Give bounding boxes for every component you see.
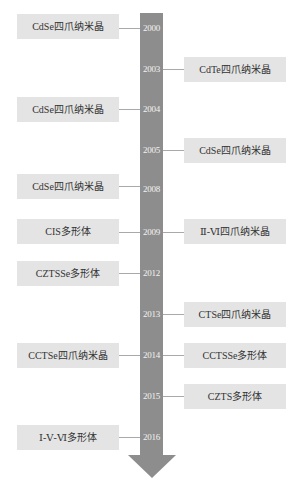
connector-line [119, 28, 140, 29]
event-box: CdSe四爪纳米晶 [17, 97, 119, 122]
year-label: 2005 [140, 145, 163, 155]
event-box: CIS多形体 [17, 219, 119, 244]
event-box: CTSe四爪纳米晶 [184, 302, 286, 327]
connector-line [163, 314, 184, 315]
connector-line [163, 150, 184, 151]
connector-line [119, 437, 140, 438]
year-label: 2013 [140, 309, 163, 319]
year-label: 2015 [140, 391, 163, 401]
year-label: 2012 [140, 268, 163, 278]
event-box: CdTe四爪纳米晶 [184, 57, 286, 82]
event-box: CdSe四爪纳米晶 [17, 14, 119, 39]
connector-line [163, 355, 184, 356]
connector-line [163, 396, 184, 397]
event-box: Ⅰ-Ⅴ-Ⅵ多形体 [17, 425, 119, 450]
event-box: CZTSSe多形体 [17, 261, 119, 286]
event-box: CdSe四爪纳米晶 [17, 174, 119, 199]
connector-line [119, 186, 140, 187]
connector-line [119, 273, 140, 274]
connector-line [119, 109, 140, 110]
year-label: 2009 [140, 227, 163, 237]
year-label: 2014 [140, 350, 163, 360]
event-box: CZTS多形体 [184, 384, 286, 409]
event-box: Ⅱ-Ⅵ四爪纳米晶 [184, 219, 286, 244]
year-label: 2008 [140, 184, 163, 194]
timeline-diagram: 2000 2003 2004 2005 2008 2009 2012 2013 … [0, 0, 300, 491]
connector-line [119, 355, 140, 356]
connector-line [163, 69, 184, 70]
connector-line [119, 232, 140, 233]
year-label: 2003 [140, 64, 163, 74]
year-label: 2000 [140, 23, 163, 33]
year-label: 2016 [140, 432, 163, 442]
arrow-down-icon [128, 455, 176, 478]
year-label: 2004 [140, 104, 163, 114]
event-box: CCTSe四爪纳米晶 [17, 343, 119, 368]
connector-line [163, 232, 184, 233]
event-box: CdSe四爪纳米晶 [184, 138, 286, 163]
event-box: CCTSSe多形体 [184, 343, 286, 368]
